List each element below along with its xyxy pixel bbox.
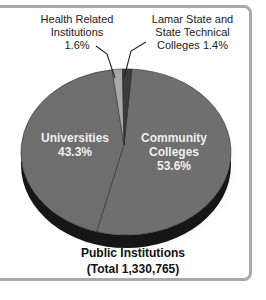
- label-lamar-line3: Colleges 1.4%: [140, 39, 245, 52]
- label-health-line1: Health Related: [22, 13, 132, 26]
- label-community-line2: Colleges: [134, 145, 214, 159]
- label-lamar-line1: Lamar State and: [140, 13, 245, 26]
- label-health-pct: 1.6%: [22, 39, 132, 52]
- label-lamar-state: Lamar State and State Technical Colleges…: [140, 13, 245, 52]
- chart-caption: Public Institutions (Total 1,330,765): [0, 245, 266, 277]
- label-community-line1: Community: [134, 131, 214, 145]
- label-health-line2: Institutions: [22, 26, 132, 39]
- label-community-colleges: Community Colleges 53.6%: [134, 131, 214, 173]
- label-community-pct: 53.6%: [134, 159, 214, 173]
- label-lamar-line2: State Technical: [140, 26, 245, 39]
- label-universities-pct: 43.3%: [35, 145, 115, 159]
- label-health-related: Health Related Institutions 1.6%: [22, 13, 132, 52]
- label-universities-name: Universities: [35, 131, 115, 145]
- label-universities: Universities 43.3%: [35, 131, 115, 159]
- chart-subtitle: (Total 1,330,765): [0, 261, 266, 277]
- chart-title: Public Institutions: [0, 245, 266, 261]
